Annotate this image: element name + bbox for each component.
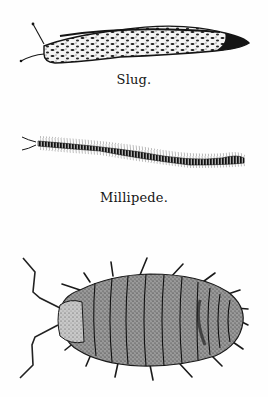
slug-drawing: [20, 23, 249, 63]
woodlouse-head: [58, 301, 84, 343]
woodlouse-body: [60, 274, 243, 366]
caption-slug: Slug.: [0, 72, 268, 87]
woodlouse-drawing: [20, 258, 248, 380]
woodlouse-antenna-lower: [20, 325, 58, 378]
millipede-antenna-upper: [22, 137, 36, 142]
slug-upper-tentacle: [33, 24, 44, 44]
slug-lower-tentacle: [21, 54, 44, 61]
woodlouse-antenna-upper: [23, 258, 60, 308]
illustration-plate: Slug. Millipede.: [0, 0, 268, 397]
millipede-antenna-lower: [22, 145, 36, 150]
millipede-drawing: [22, 136, 246, 168]
caption-millipede: Millipede.: [0, 190, 268, 205]
